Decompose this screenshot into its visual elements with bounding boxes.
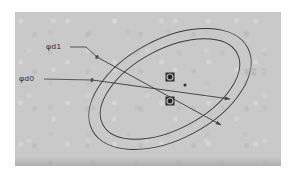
ellipse-group bbox=[69, 4, 271, 175]
dimension-label-outer-diameter: φd1 bbox=[46, 43, 61, 51]
center-marker-upper bbox=[166, 73, 175, 82]
diameter-line-d1 bbox=[97, 57, 221, 125]
drawing-canvas bbox=[0, 0, 294, 180]
dimension-line-group bbox=[92, 57, 230, 125]
inner-ellipse bbox=[84, 18, 256, 160]
outer-ellipse bbox=[69, 4, 271, 175]
leader-line-d1 bbox=[70, 47, 97, 57]
dimension-label-inner-diameter: φd0 bbox=[19, 75, 34, 83]
leader-line-d0 bbox=[44, 79, 92, 80]
faint-right-annotation: ░▒ ░ bbox=[245, 68, 268, 75]
center-dot bbox=[184, 84, 187, 87]
diameter-line-d0 bbox=[92, 80, 230, 99]
leader-line-group bbox=[44, 47, 97, 80]
figure-root: φd1 φd0 ░▒ ░ bbox=[0, 0, 294, 180]
center-marker-lower bbox=[166, 97, 175, 106]
